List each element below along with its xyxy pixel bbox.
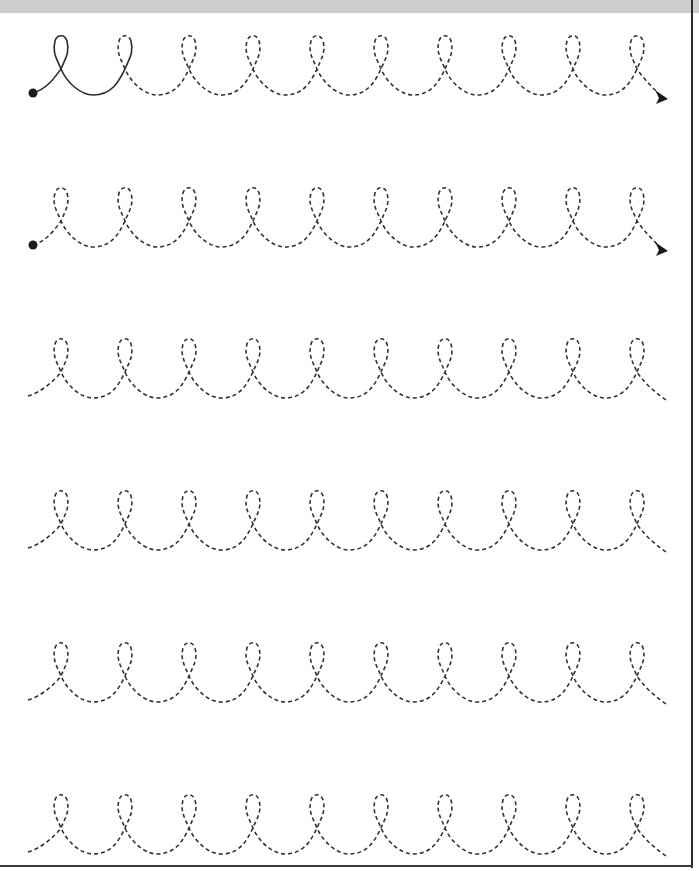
dashed-trace-stroke: [118, 36, 660, 96]
worksheet-page: Loop tracing worksheet: [0, 0, 699, 871]
arrow-head-icon: [655, 242, 668, 256]
start-dot-icon: [29, 89, 38, 98]
start-dot-icon: [29, 241, 38, 250]
trace-row: [28, 339, 666, 400]
dashed-trace-stroke: [33, 188, 660, 248]
right-border: [691, 0, 693, 868]
trace-row: [28, 643, 666, 704]
dashed-trace-stroke: [28, 795, 666, 856]
trace-row: [29, 188, 669, 256]
bottom-border: [0, 865, 693, 867]
trace-row: [28, 491, 666, 552]
solid-example-stroke: [33, 36, 132, 95]
dashed-trace-stroke: [28, 339, 666, 400]
trace-row: [28, 795, 666, 856]
loop-tracing-area: [0, 0, 699, 871]
dashed-trace-stroke: [28, 491, 666, 552]
dashed-trace-stroke: [28, 643, 666, 704]
arrow-head-icon: [655, 90, 668, 104]
trace-row: [29, 36, 669, 104]
